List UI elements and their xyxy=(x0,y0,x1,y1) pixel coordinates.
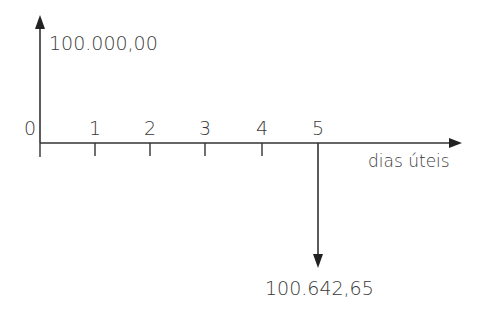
up-arrow-icon xyxy=(35,15,45,29)
outflow-arrow xyxy=(313,143,323,268)
tick-label-2: 2 xyxy=(144,119,156,138)
axis-label: dias úteis xyxy=(368,153,450,170)
tick-label-4: 4 xyxy=(256,119,268,138)
axis-ticks xyxy=(40,143,262,157)
axis-arrow-icon xyxy=(449,138,462,148)
inflow-arrow xyxy=(35,15,45,143)
outflow-value: 100.642,65 xyxy=(265,279,374,298)
tick-label-0: 0 xyxy=(24,119,36,138)
cash-flow-diagram: 0 1 2 3 4 5 dias úteis 100.000,00 100.64… xyxy=(0,0,480,311)
inflow-value: 100.000,00 xyxy=(49,34,158,53)
down-arrow-icon xyxy=(313,254,323,268)
tick-label-3: 3 xyxy=(199,119,211,138)
time-axis xyxy=(40,138,462,148)
tick-label-5: 5 xyxy=(312,119,324,138)
tick-label-1: 1 xyxy=(89,119,101,138)
